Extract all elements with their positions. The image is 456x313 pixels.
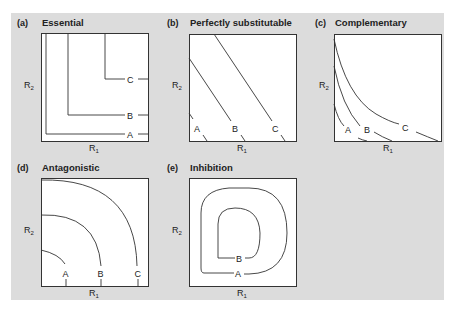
panel-e-xlabel: R1 <box>237 288 247 299</box>
curve-label-b: B <box>364 125 370 135</box>
panel-e-plot: A B <box>189 178 297 287</box>
panel-b-letter: (b) <box>167 18 179 28</box>
curve-label-b: B <box>236 254 242 264</box>
panel-e-letter: (e) <box>167 163 178 173</box>
panel-b-plot: A B C <box>189 34 297 142</box>
curve-label-c: C <box>272 124 279 134</box>
panel-c-title: Complementary <box>335 17 407 28</box>
curve-label-a: A <box>63 269 69 279</box>
panel-a-letter: (a) <box>17 18 28 28</box>
panel-a-ylabel: R2 <box>24 80 34 91</box>
panel-e-title: Inhibition <box>190 162 233 173</box>
panel-c-letter: (c) <box>315 18 326 28</box>
panel-d-ylabel: R2 <box>24 225 34 236</box>
panel-a-plot: A B C <box>41 33 149 142</box>
panel-c-ylabel: R2 <box>319 80 329 91</box>
panel-d-plot: A B C <box>41 178 149 287</box>
curve-label-c: C <box>127 75 134 85</box>
panel-b-ylabel: R2 <box>172 80 182 91</box>
panel-b-title: Perfectly substitutable <box>190 17 292 28</box>
panel-c-xlabel: R1 <box>383 143 393 154</box>
panel-a-title: Essential <box>42 17 84 28</box>
curve-label-c: C <box>135 269 142 279</box>
curve-label-b: B <box>98 269 104 279</box>
panel-a-xlabel: R1 <box>89 143 99 154</box>
panel-e-ylabel: R2 <box>172 225 182 236</box>
curve-label-c: C <box>402 123 409 133</box>
curve-label-b: B <box>127 111 133 121</box>
curve-label-b: B <box>232 124 238 134</box>
panel-b-xlabel: R1 <box>237 143 247 154</box>
panel-c-plot: A B C <box>334 34 442 142</box>
panel-d-title: Antagonistic <box>42 162 100 173</box>
curve-label-a: A <box>235 269 241 279</box>
curve-label-a: A <box>345 125 351 135</box>
curve-label-a: A <box>127 130 133 140</box>
panel-d-letter: (d) <box>17 163 29 173</box>
panel-d-xlabel: R1 <box>89 288 99 299</box>
curve-label-a: A <box>194 124 200 134</box>
